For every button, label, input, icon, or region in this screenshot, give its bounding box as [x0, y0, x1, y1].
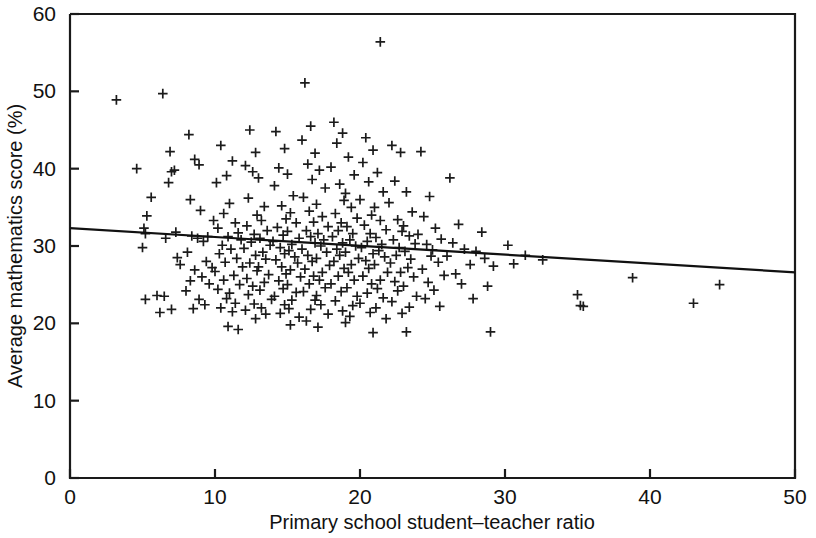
data-point: [486, 327, 496, 337]
data-point: [335, 179, 345, 189]
data-point: [254, 173, 264, 183]
data-point: [468, 294, 478, 304]
data-point: [368, 145, 378, 155]
data-point: [231, 298, 241, 308]
data-point: [297, 244, 307, 254]
x-tick-label: 0: [64, 485, 76, 508]
data-point: [223, 322, 233, 332]
data-point: [299, 192, 309, 202]
data-point: [138, 243, 148, 253]
data-point: [186, 276, 196, 286]
data-point: [188, 304, 198, 314]
data-point: [300, 78, 310, 88]
data-point: [445, 173, 455, 183]
data-point: [332, 138, 342, 148]
data-point: [231, 218, 241, 228]
y-axis-title: Average mathematics score (%): [4, 104, 26, 388]
data-point: [275, 243, 285, 253]
data-point: [397, 227, 407, 237]
data-point: [345, 312, 355, 322]
data-point: [376, 37, 386, 47]
data-point: [215, 249, 225, 259]
data-point: [261, 309, 271, 319]
data-point: [413, 230, 423, 240]
data-point: [347, 203, 357, 213]
data-point: [286, 320, 296, 330]
data-point: [216, 141, 226, 151]
data-point: [396, 148, 406, 158]
data-point: [260, 202, 270, 212]
data-point: [167, 305, 177, 315]
data-point: [270, 181, 280, 191]
data-point: [146, 192, 156, 202]
data-point: [310, 295, 320, 305]
data-point: [349, 275, 359, 285]
data-point: [280, 144, 290, 154]
data-point: [393, 215, 403, 225]
data-point: [378, 293, 388, 303]
data-point: [406, 254, 416, 264]
data-point: [393, 286, 403, 296]
data-point: [277, 262, 287, 272]
data-point: [364, 177, 374, 187]
data-point: [573, 290, 583, 300]
x-tick-label: 40: [638, 485, 661, 508]
regression-trend-line: [70, 228, 795, 272]
data-point: [241, 305, 251, 315]
data-point: [239, 244, 249, 254]
data-point: [628, 273, 638, 283]
x-tick-labels: 01020304050: [64, 485, 807, 508]
data-point: [480, 254, 490, 264]
data-point: [242, 274, 252, 284]
data-point: [429, 285, 439, 295]
data-point: [349, 170, 359, 180]
data-point: [365, 308, 375, 318]
x-tick-label: 30: [493, 485, 516, 508]
data-point: [477, 227, 487, 237]
data-point: [338, 128, 348, 138]
data-point: [141, 295, 151, 305]
data-point: [303, 159, 313, 169]
data-point: [244, 290, 254, 300]
data-point: [196, 206, 206, 216]
data-point: [289, 191, 299, 201]
data-point-markers: [112, 37, 725, 337]
data-point: [252, 210, 262, 220]
data-point: [323, 222, 333, 232]
data-point: [341, 189, 351, 199]
data-point: [251, 314, 261, 324]
data-point: [213, 285, 223, 295]
y-tick-label: 40: [33, 157, 56, 180]
data-point: [274, 276, 284, 286]
data-point: [380, 252, 390, 262]
data-point: [307, 175, 317, 185]
data-point: [368, 328, 378, 338]
data-point: [186, 195, 196, 205]
data-point: [390, 277, 400, 287]
data-point: [229, 271, 239, 281]
data-point: [222, 171, 232, 181]
data-point: [283, 169, 293, 179]
data-point: [320, 183, 330, 193]
data-point: [341, 318, 351, 328]
data-point: [367, 279, 377, 289]
data-point: [362, 288, 372, 298]
data-point: [251, 148, 261, 158]
data-point: [410, 239, 420, 249]
data-point: [416, 147, 426, 157]
data-point: [297, 135, 307, 145]
data-point: [225, 199, 235, 209]
data-point: [419, 212, 429, 222]
data-point: [373, 168, 383, 178]
data-point: [257, 216, 267, 226]
data-point: [329, 117, 339, 127]
chart-canvas: 01020304050 0102030405060 Primary school…: [0, 0, 816, 538]
data-point: [352, 213, 362, 223]
data-point: [158, 89, 168, 99]
data-point: [425, 192, 435, 202]
data-point: [358, 158, 368, 168]
data-point: [386, 258, 396, 268]
data-point: [271, 127, 281, 137]
data-point: [378, 187, 388, 197]
data-point: [448, 238, 458, 248]
